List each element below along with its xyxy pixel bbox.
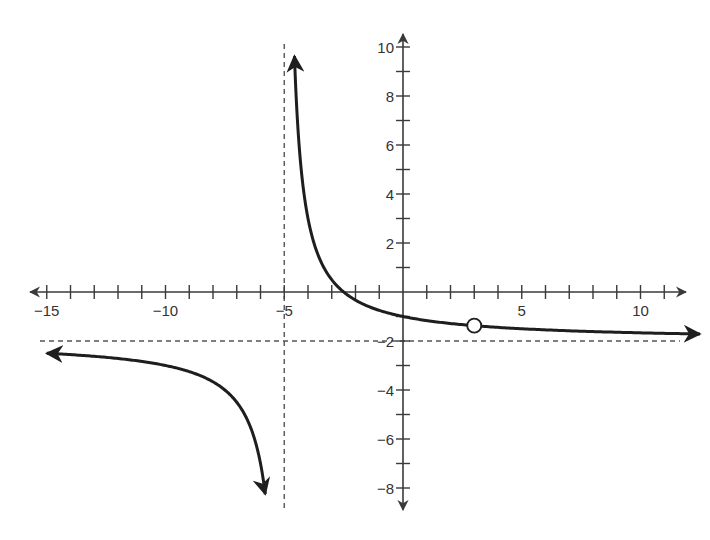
x-tick-label: −15	[34, 302, 59, 319]
y-tick-label: −4	[377, 382, 394, 399]
y-tick-label: −6	[377, 431, 394, 448]
x-tick-label: −10	[153, 302, 178, 319]
x-tick-label: 5	[518, 302, 526, 319]
asymptotes	[40, 44, 680, 510]
x-tick-label: −5	[276, 302, 293, 319]
x-axis-tick-labels: −15−10−5510	[34, 302, 649, 319]
hole-open-circle	[467, 319, 481, 333]
y-tick-label: 8	[386, 88, 394, 105]
x-tick-label: 10	[632, 302, 649, 319]
y-axis-tick-labels: 108642−2−4−6−8	[377, 39, 394, 497]
function-curve	[47, 56, 700, 494]
axes: −15−10−5510 108642−2−4−6−8	[30, 34, 686, 510]
y-tick-label: −8	[377, 480, 394, 497]
left-branch	[47, 353, 266, 494]
function-graph: −15−10−5510 108642−2−4−6−8	[0, 0, 710, 540]
y-tick-label: −2	[377, 333, 394, 350]
y-tick-label: 2	[386, 235, 394, 252]
y-tick-label: 6	[386, 137, 394, 154]
holes	[467, 319, 481, 333]
y-tick-label: 4	[386, 186, 394, 203]
y-tick-label: 10	[377, 39, 394, 56]
